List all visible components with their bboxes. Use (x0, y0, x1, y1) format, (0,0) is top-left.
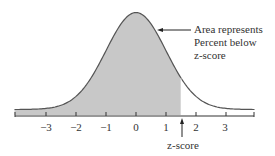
tick-label: 3 (222, 121, 228, 133)
tick-label: 0 (133, 121, 139, 133)
shaded-area (15, 13, 182, 116)
tick-label: 2 (193, 121, 199, 133)
tick-label: −2 (70, 121, 82, 133)
annotation-line-1: Area represents (194, 23, 263, 35)
z-marker-label: z-score (167, 139, 199, 151)
annotation-line-3: z-score (194, 49, 226, 61)
z-marker-arrowhead (180, 118, 184, 124)
annotation-arrowhead (157, 28, 163, 32)
tick-label: 1 (163, 121, 169, 133)
tick-label: −3 (40, 121, 52, 133)
tick-label: −1 (100, 121, 112, 133)
normal-curve-diagram: −3 −2 −1 0 1 2 3 z-score Area represents… (0, 0, 275, 156)
annotation-line-2: Percent below (194, 36, 257, 48)
